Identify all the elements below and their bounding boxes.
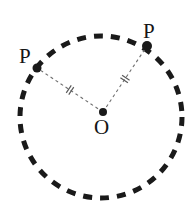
- geometry-figure: P P O: [0, 0, 196, 221]
- point-label-p-left: P: [19, 46, 31, 67]
- radius-line-right: [103, 46, 147, 112]
- radius-line-left: [37, 68, 103, 112]
- geometry-canvas: [0, 0, 196, 221]
- point-dot-p-left: [33, 64, 42, 73]
- congruence-ticks-left: [66, 85, 73, 94]
- point-label-center-o: O: [94, 117, 109, 138]
- congruence-ticks-right: [120, 75, 129, 82]
- point-label-p-right: P: [143, 21, 155, 42]
